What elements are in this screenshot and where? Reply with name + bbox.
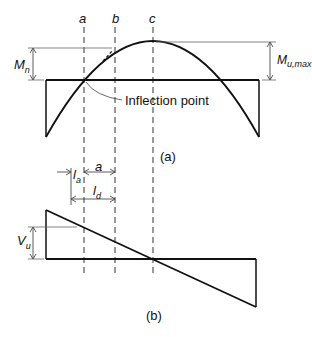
moment-diagram: [28, 41, 276, 137]
vu-label: Vu: [17, 234, 31, 251]
section-lines: [84, 27, 153, 275]
diagram-canvas: [0, 0, 312, 337]
caption-a: (a): [160, 150, 176, 163]
mn-label: Mn: [14, 58, 30, 75]
section-label-c: c: [149, 12, 156, 25]
shear-diagram: [28, 210, 256, 307]
inflection-point-label: Inflection point: [125, 94, 209, 107]
la-label: la: [73, 168, 81, 185]
section-label-b: b: [112, 12, 119, 25]
section-label-a: a: [79, 12, 86, 25]
a-dim-label: a: [95, 160, 102, 173]
caption-b: (b): [146, 309, 162, 322]
dev-dimensions: [57, 168, 115, 205]
ld-label: ld: [93, 184, 101, 201]
mu-max-label: Mu,max: [277, 54, 312, 69]
